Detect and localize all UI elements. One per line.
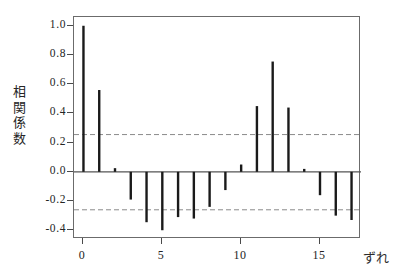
y-tick-label-0.0: 0.0: [50, 165, 66, 177]
x-tick-5: [161, 238, 162, 244]
y-tick-label-0.8: 0.8: [50, 48, 66, 60]
plot-area: [73, 16, 360, 238]
y-tick--0.2: [67, 200, 73, 201]
acf-chart-figure: 相 関 係 数 1.00.80.60.40.20.0-0.2-0.4051015…: [0, 0, 393, 277]
y-tick--0.4: [67, 229, 73, 230]
x-tick-label-5: 5: [146, 249, 176, 261]
x-tick-label-10: 10: [225, 249, 255, 261]
x-tick-0: [82, 238, 83, 244]
y-tick-label-0.2: 0.2: [50, 136, 66, 148]
x-tick-label-0: 0: [67, 249, 97, 261]
y-tick-0.8: [67, 54, 73, 55]
y-tick-label--0.4: -0.4: [45, 223, 66, 235]
y-tick-0.4: [67, 112, 73, 113]
x-tick-15: [319, 238, 320, 244]
y-tick-0.0: [67, 171, 73, 172]
y-tick-0.6: [67, 83, 73, 84]
y-tick-label-0.6: 0.6: [50, 77, 66, 89]
x-tick-10: [240, 238, 241, 244]
y-axis-title: 相 関 係 数: [8, 84, 30, 146]
x-tick-label-15: 15: [304, 249, 334, 261]
y-tick-1.0: [67, 25, 73, 26]
y-tick-label-1.0: 1.0: [50, 19, 66, 31]
y-tick-label--0.2: -0.2: [45, 194, 66, 206]
plot-canvas: [74, 17, 361, 239]
y-tick-label-0.4: 0.4: [50, 106, 66, 118]
y-tick-0.2: [67, 142, 73, 143]
x-axis-title: ずれ: [363, 251, 389, 264]
